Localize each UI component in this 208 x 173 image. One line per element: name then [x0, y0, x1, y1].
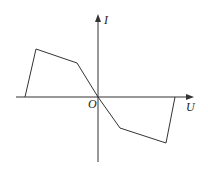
origin-label: O	[88, 97, 97, 111]
iu-curve	[25, 49, 175, 143]
x-axis-label: U	[186, 100, 196, 114]
y-axis-arrow-icon	[95, 14, 101, 22]
iu-diagram: I O U	[0, 0, 208, 173]
y-axis-label: I	[103, 13, 109, 27]
